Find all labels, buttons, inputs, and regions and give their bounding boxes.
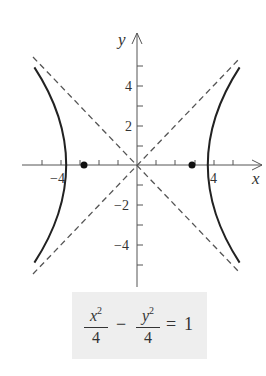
fraction-bar <box>84 327 108 328</box>
x-tick-label-neg4: −4 <box>50 171 65 186</box>
rhs-value: 1 <box>184 314 193 335</box>
y-tick-label-2: 2 <box>125 119 132 134</box>
y-axis-label: y <box>116 30 126 49</box>
y-axis <box>132 33 143 287</box>
focus-right <box>189 162 196 169</box>
focus-left <box>81 162 88 169</box>
x-axis-label: x <box>251 169 260 188</box>
fraction-bar <box>136 327 160 328</box>
equation-box: x2 4 − y2 4 = 1 <box>72 292 207 359</box>
numerator-x: x <box>90 307 97 324</box>
y-tick-label-4: 4 <box>125 79 132 94</box>
fraction-y-squared-over-4: y2 4 <box>136 302 160 347</box>
denominator: 4 <box>84 329 108 347</box>
denominator: 4 <box>136 329 160 347</box>
y-tick-label-neg4: −4 <box>114 238 129 253</box>
numerator-y: y <box>142 307 149 324</box>
exponent: 2 <box>97 305 102 316</box>
y-tick-label-neg2: −2 <box>114 198 129 213</box>
exponent: 2 <box>149 305 154 316</box>
fraction-x-squared-over-4: x2 4 <box>84 302 108 347</box>
equals-sign: = <box>166 314 176 335</box>
x-tick-label-4: 4 <box>210 171 217 186</box>
minus-sign: − <box>116 314 126 335</box>
x-axis <box>22 160 262 170</box>
